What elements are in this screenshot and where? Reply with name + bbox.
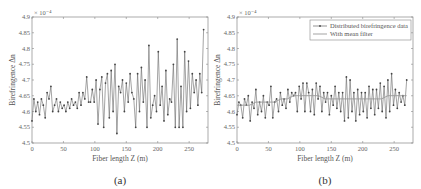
x-tick-label: 50 (265, 145, 272, 152)
data-point (50, 85, 52, 87)
data-point (342, 92, 344, 94)
data-point (362, 111, 364, 113)
data-point (63, 104, 65, 106)
data-point (75, 101, 77, 103)
data-point (99, 89, 101, 91)
legend: Distributed birefringence dataWith mean … (310, 20, 411, 40)
data-point (73, 104, 75, 106)
data-point (48, 98, 50, 100)
data-point (312, 89, 314, 91)
data-point (389, 111, 391, 113)
data-point (308, 92, 310, 94)
chart-panel-b: 4.54.554.64.654.74.754.84.854.9050100150… (213, 9, 413, 187)
legend-entry-mean-filter: With mean filter (330, 30, 374, 37)
data-point (95, 79, 97, 81)
data-point (304, 111, 306, 113)
x-tick-label: 250 (389, 145, 399, 152)
data-point (195, 79, 197, 81)
data-point (135, 126, 137, 128)
y-exponent-label: × 10⁻⁴ (239, 9, 257, 16)
data-point (370, 107, 372, 109)
data-point (315, 82, 317, 84)
data-point (61, 107, 63, 109)
data-point (56, 98, 58, 100)
data-point (58, 111, 60, 113)
data-point (107, 73, 109, 75)
data-point (193, 92, 195, 94)
data-point (137, 73, 139, 75)
data-point (327, 92, 329, 94)
data-point (118, 85, 120, 87)
data-point (46, 92, 48, 94)
data-point (385, 117, 387, 119)
data-point (296, 111, 298, 113)
data-point (82, 92, 84, 94)
data-point (157, 51, 159, 53)
data-point (139, 111, 141, 113)
data-point (84, 98, 86, 100)
data-point (325, 101, 327, 103)
data-point (361, 92, 363, 94)
data-point (395, 89, 397, 91)
data-point (114, 63, 116, 65)
data-point (197, 104, 199, 106)
data-point (108, 117, 110, 119)
data-point (347, 117, 349, 119)
data-point (201, 92, 203, 94)
x-axis-label: Fiber length Z (m) (297, 154, 353, 163)
data-point (152, 104, 154, 106)
data-point (37, 101, 39, 103)
data-point (400, 101, 402, 103)
y-tick-label: 4.9 (22, 13, 30, 20)
x-tick-label: 200 (358, 145, 368, 152)
data-point (65, 111, 67, 113)
data-point (125, 82, 127, 84)
data-point (174, 126, 176, 128)
data-point (133, 98, 135, 100)
data-point (93, 101, 95, 103)
data-point (188, 60, 190, 62)
data-point (186, 111, 188, 113)
data-point (261, 111, 263, 113)
data-point (69, 107, 71, 109)
data-point (44, 117, 46, 119)
data-point (120, 92, 122, 94)
data-point (173, 63, 175, 65)
data-point (374, 114, 376, 116)
data-point (251, 101, 253, 103)
data-point (191, 73, 193, 75)
y-tick-label: 4.7 (227, 76, 236, 83)
data-point (357, 89, 359, 91)
data-point (76, 107, 78, 109)
data-point (167, 114, 169, 116)
data-point (272, 117, 274, 119)
data-point (142, 101, 144, 103)
data-point (180, 85, 182, 87)
data-point (334, 85, 336, 87)
data-point (313, 114, 315, 116)
data-point (366, 117, 368, 119)
data-point (163, 120, 165, 122)
data-point (78, 92, 80, 94)
data-point (278, 111, 280, 113)
data-point (33, 98, 35, 100)
x-tick-label: 250 (184, 145, 194, 152)
data-point (263, 95, 265, 97)
data-point (329, 114, 331, 116)
data-point (257, 114, 259, 116)
data-point (378, 107, 380, 109)
x-tick-label: 150 (121, 145, 131, 152)
y-tick-label: 4.55 (19, 123, 30, 130)
data-point (364, 92, 366, 94)
data-point (321, 111, 323, 113)
data-point (280, 92, 282, 94)
data-point (141, 67, 143, 69)
data-point (144, 79, 146, 81)
data-point (190, 107, 192, 109)
data-point (182, 126, 184, 128)
data-point (268, 104, 270, 106)
data-point (387, 79, 389, 81)
data-point (88, 101, 90, 103)
data-point (171, 101, 173, 103)
data-point (80, 104, 82, 106)
